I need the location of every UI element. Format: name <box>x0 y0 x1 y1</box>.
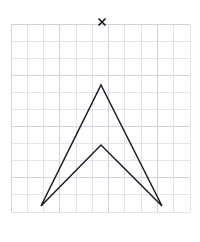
canvas-background <box>0 0 200 242</box>
figure-canvas <box>0 0 200 242</box>
figure-svg <box>0 0 200 242</box>
